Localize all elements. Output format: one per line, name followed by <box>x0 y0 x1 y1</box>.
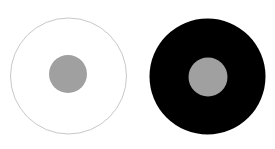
panel-white-surround <box>11 18 127 134</box>
panel-black-surround <box>150 19 266 135</box>
gray-inner-disc-left <box>49 55 87 93</box>
gray-inner-disc-right <box>189 58 228 97</box>
contrast-illusion-figure <box>0 0 275 149</box>
illusion-canvas <box>0 0 275 149</box>
